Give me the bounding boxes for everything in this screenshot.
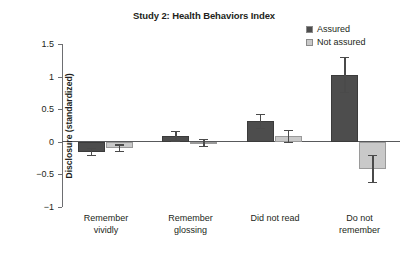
y-axis-tick — [58, 44, 62, 45]
x-axis-category-label: Do notremember — [314, 213, 404, 236]
y-axis-tick-label: 1 — [14, 73, 54, 82]
error-bar-cap — [340, 57, 349, 58]
error-bar-cap — [368, 182, 377, 183]
y-axis-tick-label: 0.5 — [14, 105, 54, 114]
x-axis-category-label-line: Do not — [314, 213, 404, 225]
x-axis-category-label-line: Remember — [145, 213, 235, 225]
error-bar-cap — [171, 140, 180, 141]
error-bar-cap — [284, 142, 293, 143]
error-bar-cap — [256, 114, 265, 115]
y-axis-tick-label: −1 — [14, 203, 54, 212]
error-bar-cap — [256, 128, 265, 129]
y-axis-tick-label: 1.5 — [14, 40, 54, 49]
error-bar — [344, 57, 345, 92]
chart-title: Study 2: Health Behaviors Index — [0, 10, 408, 21]
y-axis-tick-label: 0 — [14, 138, 54, 147]
x-axis-category-label-line: vividly — [61, 225, 151, 237]
error-bar — [203, 139, 204, 147]
error-bar — [175, 131, 176, 140]
y-axis-tick — [58, 77, 62, 78]
x-axis-category-label: Rememberglossing — [145, 213, 235, 236]
x-axis-category-label-line: remember — [314, 225, 404, 237]
error-bar — [260, 114, 261, 128]
x-axis-category-label-line: glossing — [145, 225, 235, 237]
error-bar-cap — [115, 151, 124, 152]
error-bar-cap — [368, 155, 377, 156]
error-bar-cap — [87, 155, 96, 156]
error-bar-cap — [340, 92, 349, 93]
error-bar-cap — [87, 148, 96, 149]
y-axis-tick — [58, 207, 62, 208]
plot-area: Disclosure (standardized) 1.510.50−0.5−1 — [62, 44, 400, 207]
y-axis-tick-label: −0.5 — [14, 170, 54, 179]
y-axis-tick — [58, 142, 62, 143]
error-bar-cap — [171, 131, 180, 132]
y-axis-tick — [58, 174, 62, 175]
x-axis-category-label: Remembervividly — [61, 213, 151, 236]
x-axis-category-label-line: Remember — [61, 213, 151, 225]
legend-swatch-assured — [306, 26, 313, 33]
legend-label-assured: Assured — [317, 24, 350, 35]
chart-figure: Study 2: Health Behaviors Index Assured … — [0, 0, 408, 256]
y-axis-tick — [58, 109, 62, 110]
y-axis-title: Disclosure (standardized) — [64, 73, 74, 178]
x-axis-category-label-line: Did not read — [230, 213, 320, 225]
error-bar — [288, 130, 289, 142]
x-axis-category-label: Did not read — [230, 213, 320, 225]
error-bar-cap — [115, 144, 124, 145]
error-bar-cap — [199, 139, 208, 140]
error-bar — [372, 155, 373, 182]
error-bar-cap — [199, 146, 208, 147]
error-bar-cap — [284, 130, 293, 131]
legend-item-assured: Assured — [306, 23, 406, 35]
